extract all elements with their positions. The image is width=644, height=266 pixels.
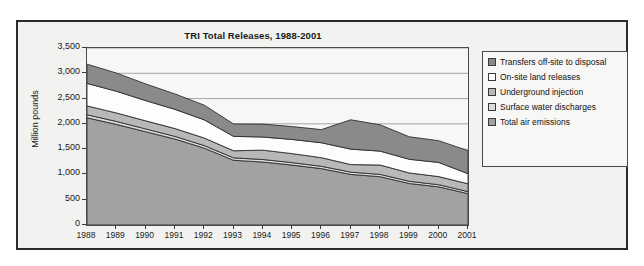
legend-item-transfers-off-site-to-disposal[interactable]: Transfers off-site to disposal: [488, 57, 623, 67]
plot-area: [86, 47, 469, 226]
x-axis-tick-mark: [262, 225, 263, 229]
x-axis-tick-mark: [467, 225, 468, 229]
legend-label: Transfers off-site to disposal: [500, 57, 606, 67]
legend-swatch-transfers-off-site-to-disposal: [488, 58, 496, 66]
x-axis-tick-mark: [233, 225, 234, 229]
x-axis-tick-mark: [291, 225, 292, 229]
y-axis-tick-label: 500: [36, 194, 80, 203]
stacked-area-plot: [87, 48, 468, 225]
y-axis-tick-label: 1,000: [36, 168, 80, 177]
legend-item-total-air-emissions[interactable]: Total air emissions: [488, 117, 623, 127]
legend-label: Surface water discharges: [500, 102, 596, 112]
y-axis-tick-label: 2,500: [36, 93, 80, 102]
legend-swatch-surface-water-discharges: [488, 103, 496, 111]
x-axis-tick-mark: [350, 225, 351, 229]
x-axis-tick-label: 2001: [449, 231, 485, 240]
x-axis-tick-mark: [408, 225, 409, 229]
x-axis-tick-mark: [115, 225, 116, 229]
x-axis-tick-mark: [145, 225, 146, 229]
chart-legend: Transfers off-site to disposalOn-site la…: [482, 51, 628, 167]
x-axis-tick-mark: [320, 225, 321, 229]
x-axis-tick-mark: [438, 225, 439, 229]
legend-swatch-on-site-land-releases: [488, 73, 496, 81]
legend-label: Underground injection: [500, 87, 583, 97]
y-axis-tick-label: 3,000: [36, 67, 80, 76]
x-axis-tick-mark: [379, 225, 380, 229]
chart-title: TRI Total Releases, 1988-2001: [18, 30, 488, 41]
legend-item-surface-water-discharges[interactable]: Surface water discharges: [488, 102, 623, 112]
legend-swatch-total-air-emissions: [488, 118, 496, 126]
figure-frame: TRI Total Releases, 1988-2001 Million po…: [16, 20, 628, 250]
y-axis-tick-label: 1,500: [36, 143, 80, 152]
y-axis-tick-label: 3,500: [36, 42, 80, 51]
legend-label: Total air emissions: [500, 117, 570, 127]
y-axis-tick-label: 0: [36, 219, 80, 228]
legend-label: On-site land releases: [500, 72, 580, 82]
legend-item-on-site-land-releases[interactable]: On-site land releases: [488, 72, 623, 82]
x-axis-tick-mark: [174, 225, 175, 229]
x-axis-tick-mark: [203, 225, 204, 229]
legend-item-underground-injection[interactable]: Underground injection: [488, 87, 623, 97]
legend-swatch-underground-injection: [488, 88, 496, 96]
y-axis-tick-label: 2,000: [36, 118, 80, 127]
